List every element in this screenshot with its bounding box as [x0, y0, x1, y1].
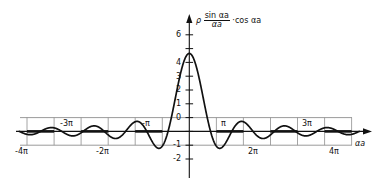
x-axis-arrow [363, 128, 372, 134]
chart-plot-area [0, 0, 386, 192]
x-tick-label-neg3pi: -3π [60, 120, 73, 128]
y-tick-label-4: 4 [167, 59, 181, 67]
y-tick-label-2: 2 [167, 86, 181, 94]
x-tick-label-2pi: 2π [248, 148, 258, 156]
y-axis-title: ρ sin αaαa ·cos αa [196, 12, 261, 30]
x-tick-label-4pi: 4π [329, 148, 339, 156]
y-axis-title-fraction: sin αaαa [204, 12, 230, 30]
y-tick-label-neg2: -2 [164, 155, 181, 163]
x-tick-label-negpi: -π [142, 120, 150, 128]
y-tick-label-0: 0 [167, 114, 181, 122]
x-tick-label-neg2pi: -2π [96, 148, 109, 156]
y-axis-title-trailing: cos αa [235, 16, 261, 25]
y-axis-title-denominator: αa [204, 21, 230, 29]
y-tick-label-1: 1 [167, 100, 181, 108]
y-tick-label-neg1: -1 [164, 141, 181, 149]
y-tick-label-6: 6 [167, 31, 181, 39]
y-tick-label-3: 3 [167, 73, 181, 81]
x-axis-title: αa [355, 140, 365, 148]
chart-figure: 6 4 3 2 1 0 -1 -2 -4π -3π -2π -π π 2π 3π… [0, 0, 386, 192]
x-tick-label-3pi: 3π [302, 120, 312, 128]
x-tick-label-neg4pi: -4π [15, 148, 28, 156]
x-tick-label-pi: π [221, 120, 226, 128]
y-axis-arrow [186, 14, 192, 23]
